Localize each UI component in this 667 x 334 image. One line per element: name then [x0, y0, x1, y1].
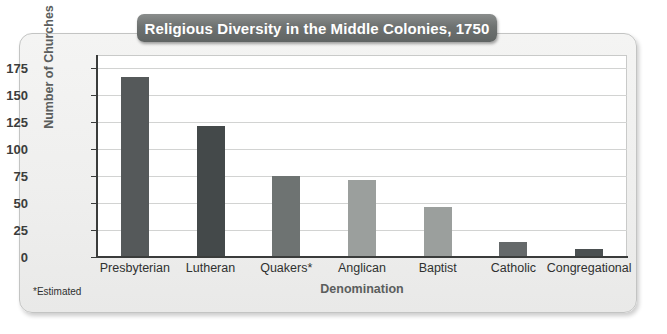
y-tick-label: 125 [0, 115, 28, 130]
x-axis-title: Denomination [97, 282, 627, 296]
bar [197, 126, 225, 257]
y-tick-label: 50 [0, 196, 28, 211]
y-tick-label: 0 [0, 250, 28, 265]
x-tick-label: Lutheran [167, 261, 255, 275]
bar [424, 207, 452, 257]
y-tick-label: 100 [0, 142, 28, 157]
gridline [97, 95, 627, 96]
x-tick-label: Anglican [318, 261, 406, 275]
y-tick-label: 75 [0, 169, 28, 184]
chart-footnote: *Estimated [33, 286, 81, 297]
y-tick-label: 150 [0, 88, 28, 103]
x-axis-line [96, 256, 628, 258]
y-axis-line [96, 55, 98, 258]
gridline [97, 149, 627, 150]
x-tick-label: Baptist [394, 261, 482, 275]
y-tick-label: 25 [0, 223, 28, 238]
y-tick-label: 175 [0, 61, 28, 76]
y-axis-title: Number of Churches [42, 0, 56, 162]
gridline [97, 176, 627, 177]
x-tick-label: Congregational [545, 261, 633, 275]
gridline [97, 68, 627, 69]
x-tick-label: Presbyterian [91, 261, 179, 275]
bar [348, 180, 376, 257]
gridline [97, 122, 627, 123]
bar [121, 77, 149, 257]
plot-area [97, 55, 627, 257]
x-tick-label: Catholic [470, 261, 558, 275]
chart-title-banner: Religious Diversity in the Middle Coloni… [137, 14, 497, 42]
x-tick-label: Quakers* [242, 261, 330, 275]
chart-title: Religious Diversity in the Middle Coloni… [145, 20, 490, 37]
bar [272, 176, 300, 257]
bar [499, 242, 527, 257]
